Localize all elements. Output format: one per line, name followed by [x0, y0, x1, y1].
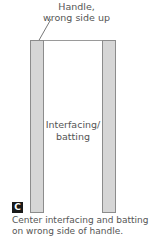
handle-strip-left [30, 40, 44, 213]
interfacing-label-line1: Interfacing/ [44, 119, 102, 131]
caption-line2: on wrong side of handle. [12, 226, 153, 237]
caption-line1: Center interfacing and batting [12, 215, 153, 226]
handle-strip-right [102, 40, 116, 213]
interfacing-label: Interfacing/ batting [44, 119, 102, 143]
step-badge: C [12, 202, 23, 213]
caption: Center interfacing and batting on wrong … [12, 215, 153, 237]
interfacing-label-line2: batting [44, 131, 102, 143]
